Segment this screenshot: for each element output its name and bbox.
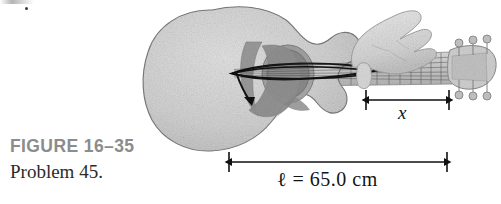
dimension-length-label: ℓ = 65.0 cm bbox=[277, 168, 378, 191]
scan-speck bbox=[25, 7, 28, 10]
scan-smudge bbox=[0, 0, 34, 4]
figure-number-label: FIGURE 16–35 bbox=[10, 136, 180, 156]
figure-16-35: x ℓ = 65.0 cm FIGURE 16–35 Problem 45. bbox=[0, 0, 501, 204]
dimension-x-label: x bbox=[398, 102, 406, 124]
figure-caption: FIGURE 16–35 Problem 45. bbox=[10, 136, 180, 184]
dimension-x bbox=[366, 90, 449, 110]
problem-number-label: Problem 45. bbox=[10, 160, 180, 184]
